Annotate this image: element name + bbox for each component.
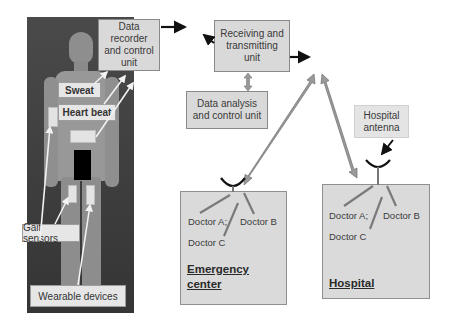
connector-arrows (0, 0, 449, 322)
wireless-double-arrows (244, 74, 357, 185)
antenna-pointer-arrow (382, 140, 393, 154)
receiver-analysis-double-arrow (244, 73, 252, 91)
sensor-links (40, 72, 133, 285)
receiver-to-recorder-arrow (204, 35, 214, 43)
emergency-antenna (221, 178, 245, 192)
hospital-antenna (366, 160, 390, 185)
hospital-doctor-arrows (344, 186, 396, 229)
emergency-doctor-arrows (200, 193, 254, 236)
